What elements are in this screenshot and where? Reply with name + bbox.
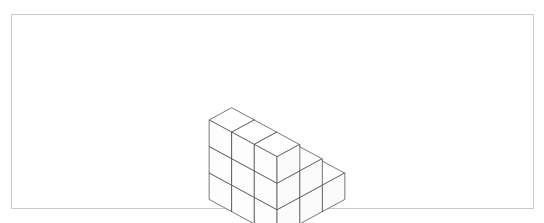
isometric-cube-figure [0, 0, 544, 223]
screenshot-root [0, 0, 544, 223]
cube-stack-svg [0, 0, 544, 223]
